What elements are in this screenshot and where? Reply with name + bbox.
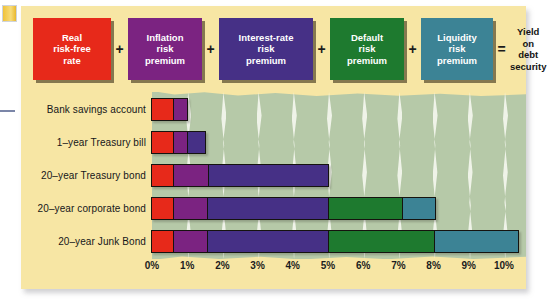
- formula-result-line: debt: [518, 49, 538, 61]
- margin-dash-mark: [0, 110, 15, 112]
- stacked-bar: [151, 131, 206, 154]
- formula-box-line: Liquidity: [437, 32, 477, 44]
- bar-row: 20–year corporate bond: [21, 197, 526, 220]
- x-tick-label-2: 2%: [205, 260, 239, 271]
- stacked-bar: [151, 230, 519, 253]
- formula-box-line: risk: [157, 43, 174, 55]
- formula-box-line: premium: [246, 55, 286, 67]
- bar-segment-real: [152, 132, 173, 153]
- bar-segment-real: [152, 165, 173, 186]
- x-tick-label-5: 5%: [311, 260, 345, 271]
- x-tick-label-8: 8%: [417, 260, 451, 271]
- formula-box-line: Inflation: [147, 32, 184, 44]
- bar-segment-int: [208, 165, 328, 186]
- x-tick-label-9: 9%: [452, 260, 486, 271]
- x-tick-label-10: 10%: [487, 260, 521, 271]
- plus-operator-2: +: [202, 18, 219, 80]
- bar-segment-real: [152, 99, 173, 120]
- formula-box-inflation-risk-premium: Inflationriskpremium: [128, 18, 202, 80]
- stacked-bar: [151, 197, 436, 220]
- formula-box-liquidity-risk-premium: Liquidityriskpremium: [421, 18, 493, 80]
- stacked-bar: [151, 164, 329, 187]
- bar-segment-real: [152, 231, 173, 252]
- formula-box-line: premium: [145, 55, 185, 67]
- x-tick-label-7: 7%: [381, 260, 415, 271]
- bar-segment-infl: [173, 99, 187, 120]
- formula-result-yield-on-debt-security: Yield ondebtsecurity: [510, 18, 546, 80]
- page-corner-swatch: [2, 5, 17, 22]
- bar-segment-infl: [173, 132, 187, 153]
- bar-segment-liq: [402, 198, 435, 219]
- x-tick-label-1: 1%: [170, 260, 204, 271]
- formula-box-line: risk: [359, 43, 376, 55]
- formula-box-line: Real: [62, 32, 82, 44]
- formula-box-line: risk-free: [53, 43, 91, 55]
- bar-segment-liq: [434, 231, 518, 252]
- formula-box-default-risk-premium: Defaultriskpremium: [330, 18, 404, 80]
- x-tick-label-0: 0%: [135, 260, 169, 271]
- risk-premium-bar-chart: Bank savings account1–year Treasury bill…: [21, 86, 526, 289]
- equals-operator: =: [493, 18, 510, 80]
- bar-row: 20–year Junk Bond: [21, 230, 526, 253]
- bar-segment-real: [152, 198, 173, 219]
- x-tick-label-4: 4%: [276, 260, 310, 271]
- plus-operator-3: +: [313, 18, 330, 80]
- x-axis-tick-labels: 0%1%2%3%4%5%6%7%8%9%10%: [21, 260, 526, 280]
- bar-row: 1–year Treasury bill: [21, 131, 526, 154]
- formula-box-interest-rate-risk-premium: Interest-rateriskpremium: [219, 18, 313, 80]
- formula-box-line: Default: [351, 32, 383, 44]
- bar-row: Bank savings account: [21, 98, 526, 121]
- formula-result-line: security: [510, 61, 546, 73]
- formula-box-real-risk-free-rate: Realrisk-freerate: [33, 18, 111, 80]
- formula-box-line: risk: [258, 43, 275, 55]
- bar-segment-int: [187, 132, 205, 153]
- yield-formula-row: Realrisk-freerate+Inflationriskpremium+I…: [33, 18, 517, 80]
- x-tick-label-6: 6%: [346, 260, 380, 271]
- bar-segment-def: [328, 198, 402, 219]
- plus-operator-4: +: [404, 18, 421, 80]
- formula-box-line: premium: [347, 55, 387, 67]
- formula-box-line: Interest-rate: [239, 32, 294, 44]
- x-tick-label-3: 3%: [241, 260, 275, 271]
- formula-box-line: premium: [437, 55, 477, 67]
- plus-operator-1: +: [111, 18, 128, 80]
- figure-panel: Realrisk-freerate+Inflationriskpremium+I…: [21, 6, 526, 289]
- bar-segment-int: [207, 198, 328, 219]
- formula-result-line: Yield on: [510, 26, 546, 49]
- bar-segment-infl: [173, 198, 206, 219]
- bar-segment-infl: [173, 231, 206, 252]
- bar-row: 20–year Treasury bond: [21, 164, 526, 187]
- bar-segment-int: [207, 231, 328, 252]
- formula-box-line: risk: [449, 43, 466, 55]
- bar-segment-infl: [173, 165, 208, 186]
- formula-box-line: rate: [63, 55, 80, 67]
- bar-segment-def: [328, 231, 434, 252]
- stacked-bar: [151, 98, 188, 121]
